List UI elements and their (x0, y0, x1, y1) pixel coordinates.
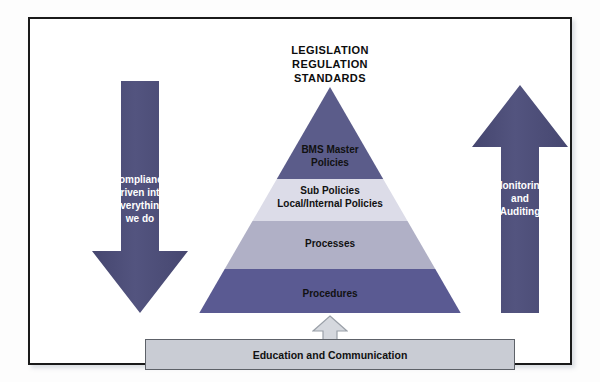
pyramid-layer-1[interactable] (253, 179, 408, 221)
pyramid-layer-2[interactable] (225, 221, 436, 269)
monitoring-up-arrow[interactable]: Monitoring and Auditing (472, 81, 568, 313)
education-communication-label: Education and Communication (253, 349, 408, 361)
title-line-2: REGULATION (230, 57, 430, 71)
arrow-up-icon (472, 81, 568, 313)
diagram-frame: LEGISLATION REGULATION STANDARDS BMS Mas… (28, 17, 572, 365)
title-line-1: LEGISLATION (230, 43, 430, 57)
pyramid-layer-3[interactable] (199, 269, 460, 313)
pyramid-shape (198, 87, 462, 315)
diagram-title: LEGISLATION REGULATION STANDARDS (230, 43, 430, 85)
education-communication-bar[interactable]: Education and Communication (145, 339, 515, 370)
pyramid-diagram: BMS Master Policies Sub Policies Local/I… (198, 87, 462, 315)
arrow-down-icon (92, 81, 188, 313)
diagram-canvas: LEGISLATION REGULATION STANDARDS BMS Mas… (0, 0, 600, 382)
pyramid-layer-0[interactable] (277, 87, 383, 179)
compliance-down-arrow[interactable]: Compliance driven into everything we do (92, 81, 188, 313)
title-line-3: STANDARDS (230, 71, 430, 85)
